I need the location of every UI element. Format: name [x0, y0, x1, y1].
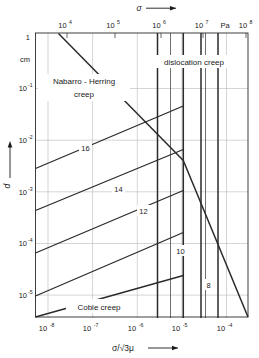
top-tick-exponent: 5	[117, 19, 120, 25]
left-tick-label-1e-2: 10 -2	[19, 134, 33, 145]
left-tick-mantissa: 10	[19, 291, 27, 300]
left-axis-unit: cm	[20, 55, 30, 64]
contour-label-10: 10	[176, 247, 184, 256]
region-label-nabarro-herring-line1: Nabarro - Herring	[53, 77, 115, 86]
bottom-tick-mantissa: 10	[172, 324, 180, 333]
bottom-tick-mantissa: 10	[217, 324, 225, 333]
bottom-tick-mantissa: 10	[128, 324, 136, 333]
bottom-tick-label-0: 10 -8	[39, 322, 55, 333]
left-tick-mantissa: 10	[19, 136, 27, 145]
top-tick-label-2: 10 6	[152, 19, 166, 30]
bottom-tick-mantissa: 10	[39, 324, 47, 333]
top-axis-arrow-head	[170, 6, 176, 11]
top-tick-exponent: 7	[206, 19, 209, 25]
left-tick-exponent: -3	[28, 186, 33, 192]
left-tick-exponent: -2	[28, 134, 33, 140]
top-axis-variable: σ	[136, 3, 142, 13]
figure-svg: σ 10 4 10 5 10 6 10 7 Pa 10	[0, 0, 259, 358]
left-tick-mantissa: 10	[19, 84, 27, 93]
left-tick-label-1e-5: 10 -5	[19, 289, 33, 300]
contour-line-10	[36, 233, 184, 297]
left-axis-variable: d	[2, 183, 12, 188]
left-tick-exponent: -4	[28, 237, 33, 243]
bottom-axis-title: σ/√3μ	[112, 343, 134, 353]
region-label-dislocation-creep: dislocation creep	[164, 58, 225, 67]
top-tick-exponent: 4	[69, 19, 72, 25]
bottom-tick-exponent: -4	[228, 322, 233, 328]
bottom-tick-label-3: 10 -5	[172, 322, 188, 333]
top-tick-label-3: 10 7	[195, 19, 209, 30]
left-tick-label-1e-4: 10 -4	[19, 237, 33, 248]
top-tick-label-0: 10 4	[58, 19, 72, 30]
bottom-tick-exponent: -7	[94, 322, 99, 328]
left-tick-mantissa: 10	[19, 188, 27, 197]
bottom-tick-label-4: 10 -4	[217, 322, 233, 333]
top-tick-mantissa: 10	[58, 21, 66, 30]
bottom-tick-mantissa: 10	[83, 324, 91, 333]
left-tick-label-1e-3: 10 -3	[19, 186, 33, 197]
top-tick-exponent: 8	[250, 19, 253, 25]
contour-label-12: 12	[139, 207, 147, 216]
left-tick-label-1e-1: 10 -1	[19, 82, 33, 93]
bottom-tick-exponent: -5	[183, 322, 188, 328]
top-axis-ticks	[67, 33, 246, 38]
region-label-nabarro-herring-line2: creep	[74, 90, 95, 99]
bottom-tick-label-2: 10 -6	[128, 322, 144, 333]
left-axis-tick-labels: 1 cm 10 -1 10 -2 10 -3 10 -4 10 -5	[19, 33, 33, 300]
contour-label-16: 16	[81, 144, 89, 153]
top-tick-label-1: 10 5	[106, 19, 120, 30]
dislocation-field-vertical-lines	[158, 33, 219, 318]
top-tick-label-4: 10 8	[239, 19, 253, 30]
top-tick-mantissa: 10	[152, 21, 160, 30]
top-tick-mantissa: 10	[239, 21, 247, 30]
top-axis-title-group: σ	[136, 3, 176, 13]
bottom-tick-label-1: 10 -7	[83, 322, 99, 333]
region-label-coble-creep: Coble creep	[77, 303, 121, 312]
left-tick-exponent: -1	[28, 82, 33, 88]
top-tick-mantissa: 10	[106, 21, 114, 30]
boundary-coble-dislocation	[183, 161, 248, 318]
bottom-axis-title-group: σ/√3μ	[112, 343, 178, 353]
left-tick-mantissa: 10	[19, 239, 27, 248]
top-axis-unit: Pa	[220, 21, 230, 30]
top-axis-tick-labels: 10 4 10 5 10 6 10 7 Pa 10 8	[58, 19, 252, 30]
bottom-axis-arrow-head	[172, 346, 178, 351]
contour-label-14: 14	[114, 185, 122, 194]
left-tick-exponent: -5	[28, 289, 33, 295]
left-axis-title-group: d	[2, 141, 12, 188]
bottom-tick-exponent: -6	[139, 322, 144, 328]
left-tick-label-1: 1	[26, 33, 30, 42]
bottom-tick-exponent: -8	[50, 322, 55, 328]
top-tick-mantissa: 10	[195, 21, 203, 30]
left-axis-arrow-head	[8, 141, 13, 148]
top-tick-exponent: 6	[163, 19, 166, 25]
deformation-mechanism-map: σ 10 4 10 5 10 6 10 7 Pa 10	[0, 0, 259, 358]
bottom-axis-tick-labels: 10 -8 10 -7 10 -6 10 -5 10 -4	[39, 322, 233, 333]
region-labels: Nabarro - Herring creep dislocation cree…	[38, 55, 238, 313]
contour-label-8: 8	[206, 281, 210, 290]
